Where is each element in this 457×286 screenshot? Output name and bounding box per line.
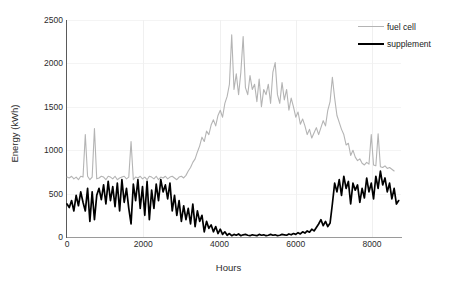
y-axis-tick-label: 500	[3, 190, 63, 199]
legend-label-fuel-cell: fuel cell	[387, 22, 416, 32]
series-line-fuel-cell	[67, 35, 394, 180]
y-axis-title: Energy (kWh)	[9, 79, 20, 189]
chart-legend: fuel cell supplement	[358, 18, 457, 52]
x-axis-tick-label: 4000	[190, 240, 250, 249]
chart-figure: 05001000150020002500 Energy (kWh) Hours …	[0, 0, 457, 286]
data-series-layer	[67, 20, 401, 237]
legend-item-supplement: supplement	[358, 35, 457, 52]
legend-label-supplement: supplement	[387, 39, 431, 49]
x-axis-tick-label: 0	[37, 240, 97, 249]
legend-swatch-supplement-icon	[358, 43, 384, 45]
y-axis-tick-label: 2500	[3, 16, 63, 25]
x-axis-tick-label: 8000	[342, 240, 402, 249]
x-axis-line	[67, 237, 402, 238]
plot-area	[67, 20, 401, 237]
x-axis-title: Hours	[0, 262, 457, 273]
series-line-supplement	[67, 171, 399, 236]
legend-swatch-fuel-cell-icon	[358, 26, 384, 27]
y-axis-tick-label: 2000	[3, 59, 63, 68]
x-axis-tick-label: 6000	[266, 240, 326, 249]
x-axis-tick-label: 2000	[113, 240, 173, 249]
legend-item-fuel-cell: fuel cell	[358, 18, 457, 35]
